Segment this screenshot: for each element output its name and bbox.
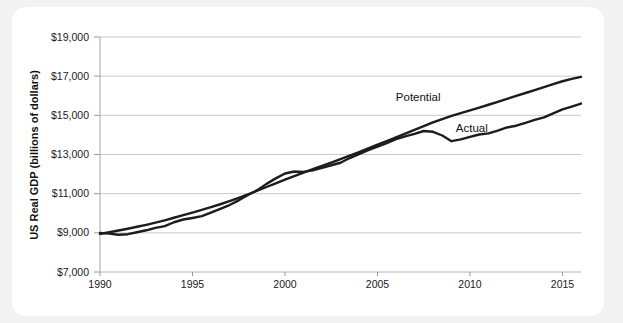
gdp-potential-vs-actual-chart: $7,000$9,000$11,000$13,000$15,000$17,000…	[0, 0, 623, 323]
series-line-actual	[100, 104, 581, 235]
x-tick-label: 1990	[88, 278, 112, 290]
series-line-potential	[100, 77, 581, 234]
y-tickmarks-group	[94, 37, 100, 272]
x-tick-label: 2010	[458, 278, 482, 290]
series-annotation-actual: Actual	[456, 122, 488, 134]
y-tick-label: $19,000	[51, 31, 89, 43]
y-tick-label: $17,000	[51, 70, 89, 82]
y-tick-label: $7,000	[57, 266, 89, 278]
x-tick-label: 2000	[273, 278, 297, 290]
y-axis-title: US Real GDP (billions of dollars)	[28, 70, 40, 240]
series-annotation-potential: Potential	[396, 91, 441, 103]
y-tick-label: $11,000	[52, 187, 89, 199]
series-annotations-group: PotentialActual	[396, 91, 488, 134]
chart-svg: $7,000$9,000$11,000$13,000$15,000$17,000…	[0, 0, 623, 323]
x-tick-labels-group: 199019952000200520102015	[88, 278, 574, 290]
x-tick-label: 2005	[366, 278, 390, 290]
y-tick-label: $13,000	[51, 148, 89, 160]
x-tick-label: 1995	[181, 278, 205, 290]
y-tick-label: $9,000	[57, 226, 89, 238]
y-tick-labels-group: $7,000$9,000$11,000$13,000$15,000$17,000…	[51, 31, 89, 278]
x-tick-label: 2015	[551, 278, 575, 290]
y-tick-label: $15,000	[51, 109, 89, 121]
gridlines-group	[100, 37, 581, 233]
